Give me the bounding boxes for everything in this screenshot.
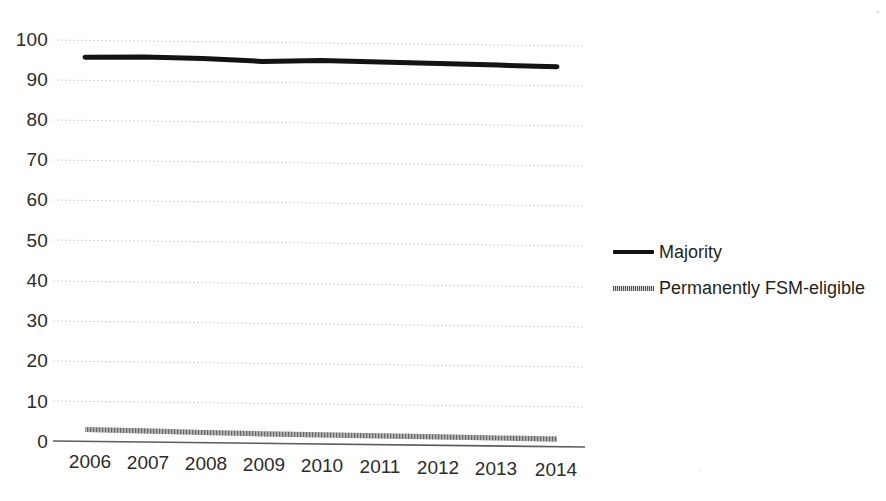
legend-item-majority[interactable]: Majority [612,234,886,270]
chart-legend: Majority Permanently FSM-eligible [612,234,886,306]
x-tick-2008: 2008 [185,454,227,473]
legend-label-majority: Majority [659,242,722,262]
x-tick-2013: 2013 [475,459,517,478]
legend-hatched-line-swatch-icon [612,281,654,295]
x-tick-2012: 2012 [417,458,459,477]
legend-line-swatch-icon [612,245,654,259]
legend-label-permanently-fsm-eligible: Permanently FSM-eligible [659,278,865,298]
x-tick-2014: 2014 [535,460,577,479]
x-axis-tick-labels: 2006 2007 2008 2009 2010 2011 2012 2013 … [0,0,620,501]
x-tick-2006: 2006 [69,452,111,471]
x-tick-2011: 2011 [360,457,401,476]
legend-item-permanently-fsm-eligible[interactable]: Permanently FSM-eligible [612,270,886,306]
x-tick-2007: 2007 [127,453,169,472]
x-tick-2010: 2010 [301,456,343,475]
chart-figure: 100 90 80 70 60 50 40 30 20 10 0 2006 20… [0,0,886,501]
x-tick-2009: 2009 [243,455,285,474]
